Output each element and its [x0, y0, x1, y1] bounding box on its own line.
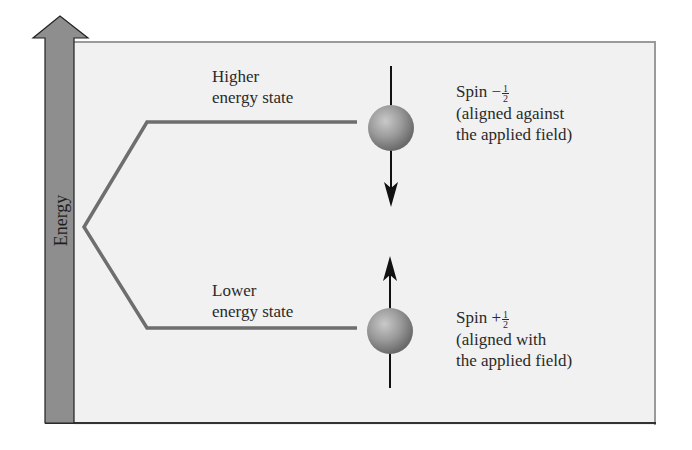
spin-up-particle	[367, 256, 413, 388]
fraction-den: 2	[502, 320, 509, 329]
lower-state-title-line2: energy state	[212, 301, 293, 322]
fraction-den: 2	[502, 94, 509, 103]
spin-down-particle	[368, 66, 414, 207]
spin-plus-desc-line2: the applied field)	[456, 350, 572, 371]
energy-diagram	[0, 0, 692, 450]
spin-prefix: Spin +	[456, 308, 501, 327]
spin-plus-half-value: Spin +12	[456, 307, 572, 329]
spin-minus-half-label: Spin −12 (aligned against the applied fi…	[456, 81, 572, 145]
fraction: 12	[502, 310, 509, 329]
spin-minus-half-value: Spin −12	[456, 81, 572, 103]
lower-state-title-line1: Lower	[212, 280, 293, 301]
spin-prefix: Spin −	[456, 82, 501, 101]
spin-minus-desc-line2: the applied field)	[456, 124, 572, 145]
higher-state-title-line2: energy state	[212, 87, 293, 108]
higher-state-label: Higher energy state	[212, 66, 293, 108]
lower-state-label: Lower energy state	[212, 280, 293, 322]
energy-axis-label: Energy	[51, 191, 72, 251]
fraction: 12	[502, 84, 509, 103]
spin-plus-desc-line1: (aligned with	[456, 329, 572, 350]
higher-state-title-line1: Higher	[212, 66, 293, 87]
spin-plus-half-label: Spin +12 (aligned with the applied field…	[456, 307, 572, 371]
spin-minus-desc-line1: (aligned against	[456, 103, 572, 124]
